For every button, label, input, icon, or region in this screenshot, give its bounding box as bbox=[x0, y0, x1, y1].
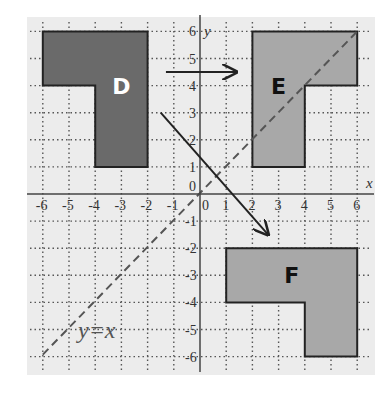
x-tick-label: 0 bbox=[202, 198, 209, 213]
y-tick-label: -4 bbox=[185, 295, 197, 310]
y-tick-label: -5 bbox=[185, 323, 197, 338]
x-tick-label: -3 bbox=[114, 198, 126, 213]
x-tick-label: -2 bbox=[141, 198, 153, 213]
y-tick-label: 4 bbox=[189, 79, 196, 94]
y-tick-label: -1 bbox=[185, 214, 197, 229]
y-tick-label: -2 bbox=[185, 241, 197, 256]
y-tick-label: -3 bbox=[185, 268, 197, 283]
plot-svg: -6-5-4-3-2-101234566543210-1-2-3-4-5-6 x… bbox=[0, 0, 390, 397]
coordinate-plane-diagram: -6-5-4-3-2-101234566543210-1-2-3-4-5-6 x… bbox=[0, 0, 390, 397]
y-tick-label: 5 bbox=[189, 52, 196, 67]
x-tick-label: -1 bbox=[167, 198, 179, 213]
shape-label-d: D bbox=[112, 74, 130, 99]
y-axis-label: y bbox=[202, 23, 211, 39]
y-tick-label: 3 bbox=[189, 106, 196, 121]
x-tick-label: -6 bbox=[36, 198, 48, 213]
x-axis-label: x bbox=[365, 175, 373, 191]
x-tick-label: -4 bbox=[88, 198, 100, 213]
x-tick-label: 6 bbox=[353, 198, 360, 213]
x-tick-label: 1 bbox=[222, 198, 229, 213]
x-tick-label: 4 bbox=[301, 198, 308, 213]
y-tick-label: 6 bbox=[189, 24, 196, 39]
x-tick-label: 2 bbox=[248, 198, 255, 213]
x-tick-label: 5 bbox=[327, 198, 334, 213]
x-tick-label: -5 bbox=[62, 198, 74, 213]
shape-label-f: F bbox=[284, 263, 299, 288]
x-tick-label: 3 bbox=[275, 198, 282, 213]
y-tick-label: -6 bbox=[185, 350, 197, 365]
y-tick-label: 0 bbox=[189, 179, 196, 194]
y-tick-label: 1 bbox=[189, 160, 196, 175]
equation-label: y=x bbox=[76, 317, 116, 343]
shape-label-e: E bbox=[271, 74, 286, 99]
